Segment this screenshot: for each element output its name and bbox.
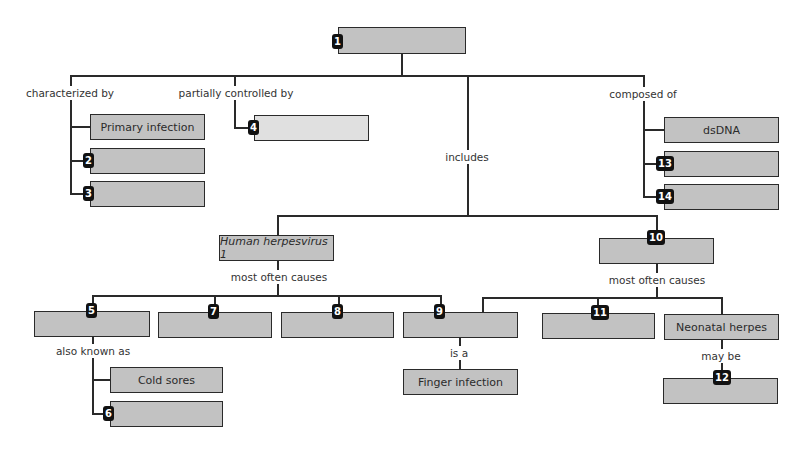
connector	[482, 297, 484, 312]
link-label-also-known-as: also known as	[54, 344, 132, 358]
concept-box-14[interactable]	[664, 184, 779, 210]
connector	[277, 215, 657, 217]
number-badge-10: 10	[647, 230, 665, 245]
number-badge-7: 7	[208, 304, 219, 319]
link-label-includes: includes	[443, 150, 491, 164]
concept-box-9[interactable]	[403, 312, 518, 338]
connector	[277, 215, 279, 235]
concept-box-1[interactable]	[338, 27, 466, 54]
number-badge-3: 3	[83, 186, 94, 201]
concept-box-human-herpesvirus-1[interactable]: Human herpesvirus 1	[219, 235, 334, 261]
connector	[482, 297, 722, 299]
connector	[401, 53, 403, 75]
concept-box-finger-infection[interactable]: Finger infection	[403, 369, 518, 395]
connector	[70, 126, 90, 128]
link-label-characterized-by: characterized by	[24, 86, 116, 100]
number-badge-9: 9	[434, 304, 445, 319]
concept-box-cold-sores[interactable]: Cold sores	[110, 367, 223, 393]
number-badge-5: 5	[86, 303, 97, 318]
concept-box-6[interactable]	[110, 401, 223, 427]
link-label-most-often-causes-right: most often causes	[607, 273, 707, 287]
concept-box-dsdna[interactable]: dsDNA	[664, 117, 779, 143]
concept-box-4[interactable]	[254, 115, 369, 141]
connector	[721, 297, 723, 314]
number-badge-8: 8	[332, 304, 343, 319]
number-badge-12: 12	[713, 370, 731, 385]
connector	[467, 75, 469, 215]
concept-box-2[interactable]	[90, 148, 205, 174]
number-badge-14: 14	[656, 189, 674, 204]
concept-box-primary-infection[interactable]: Primary infection	[90, 114, 205, 140]
link-label-composed-of: composed of	[607, 87, 679, 101]
number-badge-13: 13	[656, 156, 674, 171]
link-label-is-a: is a	[448, 346, 470, 360]
concept-box-3[interactable]	[90, 181, 205, 207]
link-label-most-often-causes-left: most often causes	[229, 270, 329, 284]
number-badge-6: 6	[103, 406, 114, 421]
connector	[92, 379, 110, 381]
connector	[234, 75, 236, 128]
connector	[643, 129, 664, 131]
link-label-partially-controlled-by: partially controlled by	[177, 86, 296, 100]
concept-box-13[interactable]	[664, 151, 779, 177]
number-badge-2: 2	[83, 153, 94, 168]
concept-box-neonatal-herpes[interactable]: Neonatal herpes	[664, 314, 779, 340]
connector	[92, 295, 441, 297]
connector	[70, 75, 644, 77]
link-label-may-be: may be	[699, 349, 742, 363]
number-badge-11: 11	[591, 305, 609, 320]
number-badge-4: 4	[248, 120, 259, 135]
number-badge-1: 1	[332, 34, 343, 49]
